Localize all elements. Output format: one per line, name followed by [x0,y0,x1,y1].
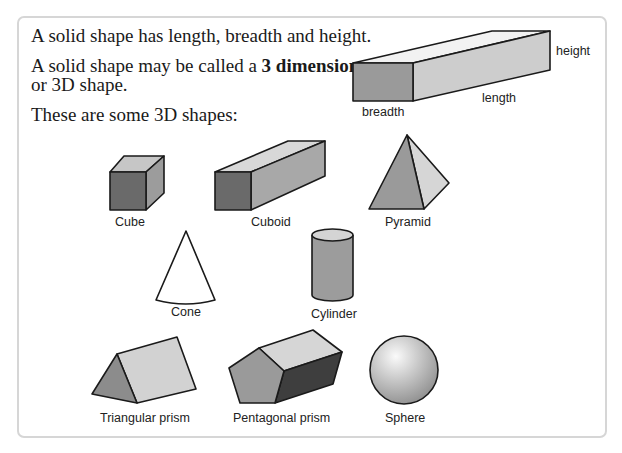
shapes-illustration [0,0,622,453]
cylinder-label: Cylinder [311,307,357,321]
triangular-prism-label: Triangular prism [100,411,190,425]
cone-label: Cone [171,305,201,319]
cylinder-shape [312,229,353,301]
cuboid-label: Cuboid [251,215,291,229]
cube-label: Cube [115,215,145,229]
breadth-label: breadth [362,105,404,119]
dimension-cuboid-diagram [353,31,550,101]
pentagonal-prism-shape [229,330,342,403]
length-label: length [482,91,516,105]
height-label: height [556,44,590,58]
triangular-prism-shape [92,337,196,403]
pyramid-label: Pyramid [385,215,431,229]
pyramid-shape [369,135,449,209]
cuboid-shape [215,141,325,210]
pentagonal-prism-label: Pentagonal prism [233,411,330,425]
sphere-shape [370,336,438,404]
cone-shape [156,231,215,304]
sphere-label: Sphere [385,411,425,425]
cube-shape [110,156,164,210]
